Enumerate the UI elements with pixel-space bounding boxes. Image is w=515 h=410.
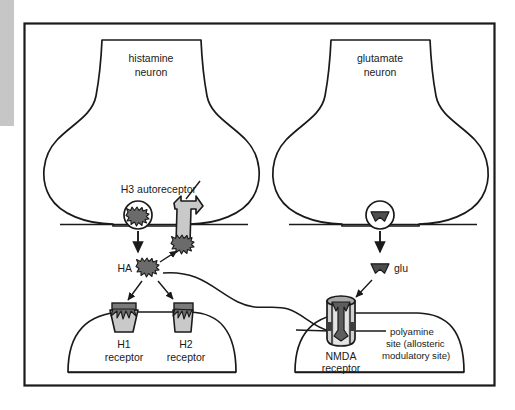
figure-canvas: histamine neuron H3 autoreceptor HA — [0, 0, 515, 410]
glutamate-neuron-label-line2: neuron — [364, 66, 397, 78]
histamine-neuron-label-line2: neuron — [135, 66, 168, 78]
histamine-postsynaptic-cell — [68, 312, 236, 373]
histamine-vesicle — [124, 201, 152, 229]
h1-receptor-label-line1: H1 — [117, 338, 131, 350]
nmda-receptor-label-line2: receptor — [322, 362, 361, 374]
glu-molecule-label: glu — [394, 262, 408, 274]
glutamate-neuron-label-line1: glutamate — [357, 52, 403, 64]
nmda-receptor-label-line1: NMDA — [326, 350, 357, 362]
postsynaptic-dome-left — [68, 312, 236, 372]
nmda-polyamine-site-right — [350, 322, 355, 331]
histamine-neuron-label-line1: histamine — [129, 52, 174, 64]
nmda-polyamine-site-left — [327, 322, 332, 331]
h2-receptor-label-line2: receptor — [167, 351, 206, 363]
polyamine-label-line1: polyamine — [390, 326, 434, 337]
h1-receptor-label-line2: receptor — [105, 351, 144, 363]
glutamate-vesicle — [366, 201, 394, 229]
nmda-receptor: NMDA receptor — [322, 296, 361, 374]
ha-molecule-label: HA — [117, 262, 132, 274]
h3-autoreceptor-label: H3 autoreceptor — [121, 183, 197, 195]
synapse-diagram: histamine neuron H3 autoreceptor HA — [0, 0, 515, 410]
polyamine-label-line2: site (allosteric — [386, 338, 445, 349]
postsynaptic-left-connector — [296, 330, 330, 331]
polyamine-label-line3: modulatory site) — [382, 350, 450, 361]
h2-receptor-label-line1: H2 — [179, 338, 193, 350]
